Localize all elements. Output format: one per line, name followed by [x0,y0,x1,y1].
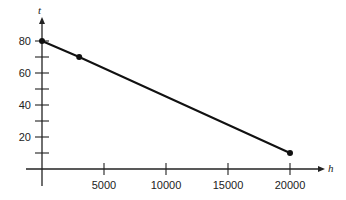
data-point [287,150,293,156]
y-tick-label: 40 [19,99,31,111]
line-chart: 5000100001500020000 20406080 h t [0,0,346,200]
y-tick-label: 80 [19,35,31,47]
x-tick-label: 10000 [151,179,182,191]
x-axis-label: h [328,162,334,174]
x-tick-label: 20000 [275,179,306,191]
y-axis-ticks: 20406080 [19,35,49,153]
y-tick-label: 20 [19,131,31,143]
data-point [76,54,82,60]
data-point [39,38,45,44]
data-series [39,38,293,156]
y-axis-arrow-icon [39,17,45,24]
x-tick-label: 5000 [92,179,116,191]
x-tick-label: 15000 [213,179,244,191]
y-tick-label: 60 [19,67,31,79]
y-axis-label: t [38,4,42,16]
x-axis-ticks: 5000100001500020000 [92,163,306,191]
x-axis-arrow-icon [318,166,325,172]
